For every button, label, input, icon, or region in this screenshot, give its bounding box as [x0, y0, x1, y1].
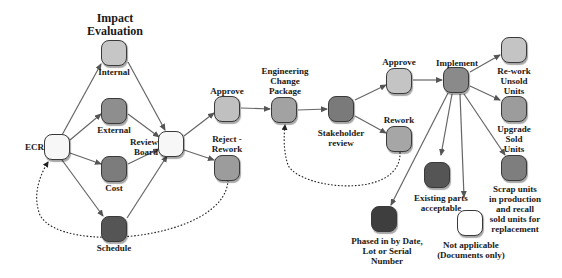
impact-evaluation-title: Impact Evaluation: [84, 12, 146, 38]
stakeholder-review-node[interactable]: [328, 96, 354, 122]
review-board-node[interactable]: [158, 131, 184, 157]
edge-stakeholder-approve: [355, 85, 386, 100]
phased-in-label: Phased in by Date, Lot or Serial Number: [344, 236, 430, 266]
external-node[interactable]: [101, 98, 127, 124]
rework-label: Rework: [377, 115, 421, 125]
implement-label: Implement: [430, 58, 484, 68]
phased-in-node[interactable]: [371, 206, 397, 232]
engineering-change-package-label: Engineering Change Package: [256, 66, 314, 96]
approve-stakeholder-label: Approve: [377, 57, 421, 67]
edge-implement-notapplicable: [460, 94, 464, 197]
edges-layer: [0, 0, 562, 278]
implement-node[interactable]: [443, 67, 469, 93]
existing-parts-node[interactable]: [424, 162, 450, 188]
cost-node[interactable]: [101, 156, 127, 182]
stakeholder-review-label: Stakeholder review: [312, 128, 370, 148]
not-applicable-node[interactable]: [457, 210, 483, 236]
external-label: External: [92, 125, 136, 135]
ecr-label: ECR: [18, 142, 44, 152]
not-applicable-label: Not applicable (Documents only): [430, 240, 512, 260]
approve-label: Approve: [205, 86, 249, 96]
edge-ecr-cost: [70, 153, 101, 164]
internal-label: Internal: [94, 67, 134, 77]
edge-approve-ecp: [241, 108, 270, 109]
upgrade-sold-units-node[interactable]: [501, 96, 527, 122]
review-board-label: Review Board: [126, 137, 158, 157]
rework-unsold-units-label: Re-work Unsold Units: [492, 66, 536, 96]
schedule-node[interactable]: [101, 216, 127, 242]
schedule-label: Schedule: [90, 243, 138, 253]
ecr-node[interactable]: [44, 134, 70, 160]
reject-rework-node[interactable]: [214, 155, 240, 181]
rework-unsold-units-node[interactable]: [501, 37, 527, 63]
edge-reject-loop-ecr: [37, 162, 228, 237]
reject-rework-label: Reject - Rework: [205, 134, 249, 154]
approve-stakeholder-node[interactable]: [386, 68, 412, 94]
rework-node[interactable]: [386, 126, 412, 152]
edge-review-approve: [184, 113, 214, 136]
cost-label: Cost: [94, 183, 134, 193]
internal-node[interactable]: [101, 40, 127, 66]
scrap-units-label: Scrap units in production and recall sol…: [486, 184, 544, 234]
upgrade-sold-units-label: Upgrade Sold Units: [492, 124, 536, 154]
approve-node[interactable]: [214, 96, 240, 122]
engineering-change-package-node[interactable]: [271, 97, 297, 123]
ecr-process-diagram: Impact Evaluation ECR Internal External …: [0, 0, 562, 278]
edge-ecp-stakeholder: [298, 109, 327, 110]
scrap-units-node[interactable]: [501, 155, 527, 181]
